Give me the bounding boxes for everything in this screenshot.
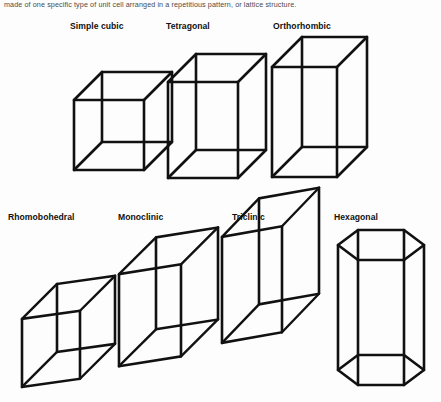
caption-text: made of one specific type of unit cell a… [4, 0, 438, 9]
shape-orthorhombic [272, 37, 367, 177]
shape-rhombohedral [22, 276, 115, 387]
label-triclinic: Triclinic [232, 212, 265, 222]
label-rhombohedral: Rhomobohedral [8, 212, 75, 222]
figure-page: made of one specific type of unit cell a… [0, 0, 441, 402]
label-orthorhombic: Orthorhombic [273, 21, 331, 31]
lattice-diagram [0, 0, 441, 402]
shape-tetragonal [168, 54, 266, 178]
label-monoclinic: Monoclinic [118, 212, 163, 222]
shape-simple-cubic [74, 72, 172, 170]
shape-monoclinic [119, 227, 218, 366]
label-simple-cubic: Simple cubic [70, 21, 124, 31]
shape-hexagonal [338, 230, 424, 385]
label-tetragonal: Tetragonal [166, 21, 210, 31]
label-hexagonal: Hexagonal [334, 212, 378, 222]
